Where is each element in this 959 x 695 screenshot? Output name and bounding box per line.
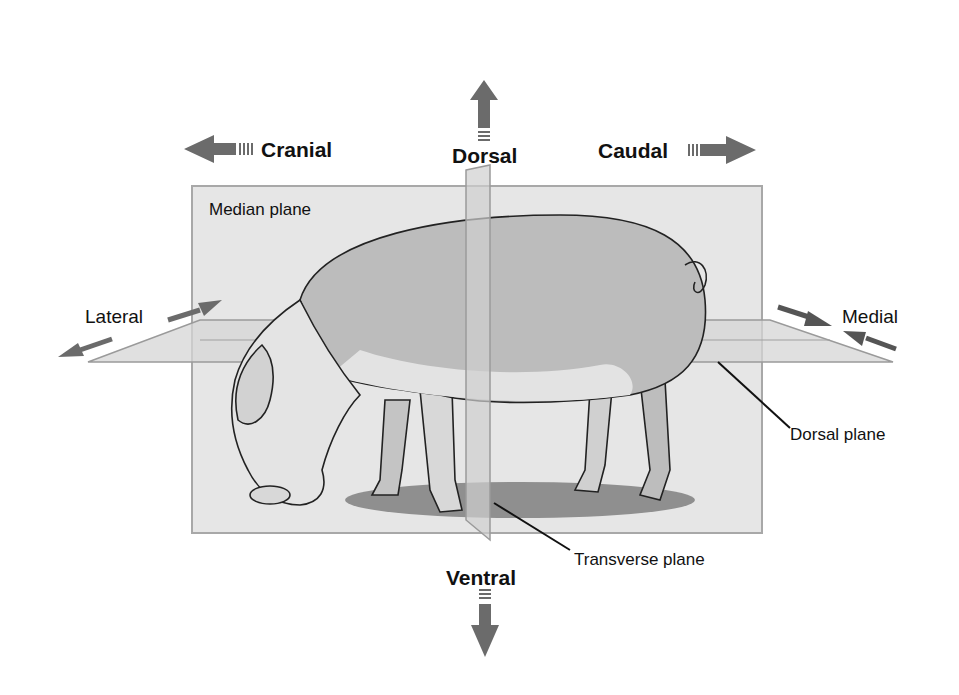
dorsal-plane-label: Dorsal plane: [790, 425, 885, 445]
cranial-arrow-icon: [184, 135, 253, 163]
dorsal-arrow-icon: [470, 80, 498, 141]
dorsal-label: Dorsal: [452, 144, 517, 168]
transverse-plane-label: Transverse plane: [574, 550, 705, 570]
lateral-label: Lateral: [85, 306, 143, 328]
caudal-label: Caudal: [598, 139, 668, 163]
ventral-arrow-icon: [471, 589, 499, 657]
medial-label: Medial: [842, 306, 898, 328]
ventral-label: Ventral: [446, 566, 516, 590]
transverse-plane: [466, 165, 490, 540]
cranial-label: Cranial: [261, 138, 332, 162]
median-plane-label: Median plane: [209, 200, 311, 220]
caudal-arrow-icon: [688, 136, 756, 164]
diagram-canvas: [0, 0, 959, 695]
